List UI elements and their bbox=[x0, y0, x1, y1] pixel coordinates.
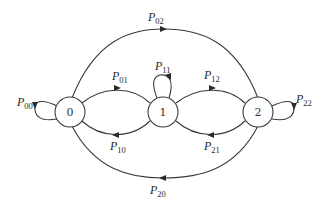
state-label-2: 2 bbox=[255, 106, 262, 119]
edge-label-p11: P11 bbox=[154, 59, 171, 75]
edge-2-to-2: P22 bbox=[272, 92, 312, 120]
arrow-head-icon bbox=[207, 132, 214, 138]
edge-0-to-1: P01 bbox=[82, 69, 150, 103]
markov-chain-diagram: P02 P20 P01 P10 P12 P21 P00 P11 bbox=[0, 0, 324, 206]
edge-1-to-2: P12 bbox=[176, 68, 245, 103]
arrow-head-icon bbox=[159, 175, 166, 181]
arrow-head-icon bbox=[32, 102, 38, 109]
edge-label-p02: P02 bbox=[147, 10, 164, 26]
edge-1-to-0: P10 bbox=[82, 121, 150, 155]
edge-label-p22: P22 bbox=[295, 92, 312, 108]
state-label-1: 1 bbox=[160, 106, 167, 119]
state-label-0: 0 bbox=[67, 106, 74, 119]
edge-2-to-0: P20 bbox=[72, 126, 258, 199]
state-node-1: 1 bbox=[148, 97, 178, 127]
state-node-2: 2 bbox=[243, 97, 273, 127]
edge-label-p21: P21 bbox=[203, 139, 220, 155]
edge-0-to-2: P02 bbox=[72, 10, 258, 98]
edge-0-to-0: P00 bbox=[16, 95, 57, 120]
edge-label-p12: P12 bbox=[203, 68, 220, 84]
arrow-head-icon bbox=[112, 132, 119, 138]
arrow-head-icon bbox=[160, 26, 167, 32]
edge-label-p20: P20 bbox=[149, 183, 166, 199]
edge-label-p01: P01 bbox=[111, 69, 128, 85]
edge-label-p10: P10 bbox=[109, 139, 126, 155]
edge-label-p00: P00 bbox=[16, 95, 33, 111]
edge-1-to-1: P11 bbox=[154, 59, 172, 98]
edge-2-to-1: P21 bbox=[176, 121, 245, 155]
state-node-0: 0 bbox=[55, 97, 85, 127]
